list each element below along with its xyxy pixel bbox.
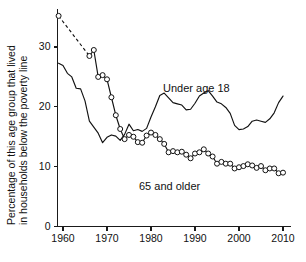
data-point-65-and-older-1970 bbox=[105, 77, 110, 82]
y-axis-title: Percentage of this age group that lived … bbox=[5, 45, 29, 225]
data-point-65-and-older-1992 bbox=[201, 147, 206, 152]
data-point-65-and-older-1994 bbox=[210, 154, 215, 159]
y-tick-label-10: 10 bbox=[39, 160, 51, 172]
data-point-65-and-older-1974 bbox=[122, 137, 127, 142]
x-tick-label-2000: 2000 bbox=[227, 232, 251, 244]
data-point-65-and-older-1978 bbox=[140, 140, 145, 145]
series-label-65-and-older: 65 and older bbox=[139, 180, 200, 192]
x-tick-label-1970: 1970 bbox=[95, 232, 119, 244]
data-point-65-and-older-1969 bbox=[100, 73, 105, 78]
data-point-65-and-older-1959 bbox=[56, 13, 61, 18]
y-axis-title-line-1: Percentage of this age group that lived bbox=[5, 45, 17, 225]
y-axis-title-line-2: in households below the poverty line bbox=[17, 56, 29, 225]
x-tick-label-2010: 2010 bbox=[271, 232, 295, 244]
data-point-65-and-older-1973 bbox=[118, 126, 123, 131]
data-point-65-and-older-2008 bbox=[272, 166, 277, 171]
series-line-under-age-18 bbox=[59, 63, 283, 143]
x-axis-ticks: 196019701980199020002010 bbox=[51, 227, 295, 245]
data-point-65-and-older-1998 bbox=[228, 161, 233, 166]
y-tick-label-30: 30 bbox=[39, 40, 51, 52]
data-point-65-and-older-1966 bbox=[87, 53, 92, 58]
x-tick-label-1980: 1980 bbox=[139, 232, 163, 244]
x-tick-label-1990: 1990 bbox=[183, 232, 207, 244]
data-point-65-and-older-1976 bbox=[131, 134, 136, 139]
y-tick-label-0: 0 bbox=[45, 220, 51, 232]
x-tick-label-1960: 1960 bbox=[51, 232, 75, 244]
data-point-65-and-older-2010 bbox=[281, 170, 286, 175]
data-point-65-and-older-1981 bbox=[153, 132, 158, 137]
data-point-65-and-older-1982 bbox=[157, 137, 162, 142]
series-markers-65-and-older bbox=[56, 13, 285, 175]
data-point-65-and-older-1972 bbox=[113, 113, 118, 118]
data-point-65-and-older-1971 bbox=[109, 95, 114, 100]
data-point-65-and-older-1988 bbox=[184, 152, 189, 157]
data-point-65-and-older-1967 bbox=[91, 47, 96, 52]
data-point-65-and-older-2005 bbox=[259, 164, 264, 169]
chart-canvas: 0102030 196019701980199020002010 Under a… bbox=[0, 0, 306, 262]
series-dashed-connector-65-and-older bbox=[59, 16, 90, 56]
data-point-65-and-older-1989 bbox=[188, 156, 193, 161]
y-tick-label-20: 20 bbox=[39, 100, 51, 112]
series-label-under-age-18: Under age 18 bbox=[163, 82, 230, 94]
poverty-rate-chart: 0102030 196019701980199020002010 Under a… bbox=[0, 0, 306, 262]
y-axis-ticks: 0102030 bbox=[39, 40, 58, 232]
data-point-65-and-older-1983 bbox=[162, 141, 167, 146]
